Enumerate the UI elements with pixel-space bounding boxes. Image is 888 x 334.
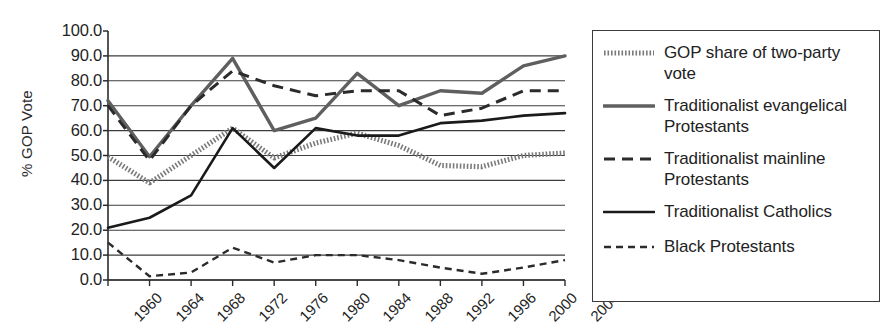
- x-tick-label: 1964: [171, 289, 207, 325]
- legend-label: Traditionalist mainline Protestants: [664, 148, 871, 190]
- x-tick-label: 1992: [462, 289, 498, 325]
- legend-item: Traditionalist Catholics: [603, 201, 871, 225]
- data-series-layer: [108, 56, 565, 276]
- y-tick-label: 20.0: [71, 220, 102, 239]
- chart-figure: % GOP Vote 100.090.080.070.060.050.040.0…: [0, 0, 888, 334]
- y-tick-label: 100.0: [62, 21, 102, 40]
- y-tick-label: 70.0: [71, 96, 102, 115]
- legend-label: Traditionalist Catholics: [664, 201, 832, 222]
- x-axis-tick-labels: 1960196419681972197619801984198819921996…: [108, 280, 565, 334]
- x-tick-label: 1972: [254, 289, 290, 325]
- y-tick-label: 60.0: [71, 121, 102, 140]
- legend-item: GOP share of two-party vote: [603, 42, 871, 84]
- y-axis-title: % GOP Vote: [18, 64, 35, 204]
- y-tick-label: 40.0: [71, 171, 102, 190]
- legend-swatch-icon: [603, 46, 655, 66]
- x-tick-label: 1968: [213, 289, 249, 325]
- legend-swatch-icon: [603, 99, 655, 119]
- y-tick-label: 0.0: [80, 270, 102, 289]
- y-tick-label: 30.0: [71, 195, 102, 214]
- x-tick-label: 1976: [296, 289, 332, 325]
- legend-swatch-icon: [603, 205, 655, 225]
- y-tick-label: 50.0: [71, 146, 102, 165]
- y-tick-label: 90.0: [71, 46, 102, 65]
- y-tick-label: 80.0: [71, 71, 102, 90]
- legend-item: Traditionalist evangelical Protestants: [603, 95, 871, 137]
- series-line: [108, 56, 565, 157]
- x-tick-label: 1980: [337, 289, 373, 325]
- legend-swatch-icon: [603, 240, 655, 260]
- legend-item: Black Protestants: [603, 236, 871, 260]
- plot-area: [108, 31, 565, 280]
- legend-item: Traditionalist mainline Protestants: [603, 148, 871, 190]
- gridlines: [108, 56, 565, 280]
- x-tick-label: 2000: [545, 289, 581, 325]
- series-line: [108, 243, 565, 277]
- legend-label: Black Protestants: [664, 236, 795, 257]
- series-canvas: [108, 31, 565, 280]
- chart-legend: GOP share of two-party voteTraditionalis…: [592, 30, 880, 302]
- x-tick-label: 1960: [130, 289, 166, 325]
- y-tick-label: 10.0: [71, 245, 102, 264]
- x-tick-label: 1988: [421, 289, 457, 325]
- legend-label: GOP share of two-party vote: [664, 42, 871, 84]
- y-axis-tick-labels: 100.090.080.070.060.050.040.030.020.010.…: [36, 0, 102, 334]
- x-tick-label: 1996: [504, 289, 540, 325]
- legend-swatch-icon: [603, 152, 655, 172]
- axis-ticks: [103, 31, 565, 286]
- x-tick-label: 1984: [379, 289, 415, 325]
- legend-label: Traditionalist evangelical Protestants: [664, 95, 871, 137]
